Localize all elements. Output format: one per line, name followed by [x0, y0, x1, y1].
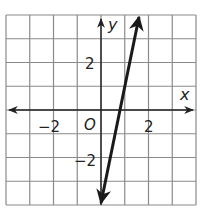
y-tick-2: 2: [85, 55, 95, 73]
x-axis-label: x: [179, 85, 190, 104]
axes: [9, 19, 193, 205]
x-tick-neg2: −2: [38, 118, 60, 136]
y-tick-neg2: −2: [74, 152, 96, 170]
y-axis-label: y: [107, 15, 118, 34]
x-tick-2: 2: [144, 118, 154, 136]
coordinate-plane: x y O −2 2 2 −2: [0, 0, 208, 221]
origin-label: O: [84, 116, 96, 134]
